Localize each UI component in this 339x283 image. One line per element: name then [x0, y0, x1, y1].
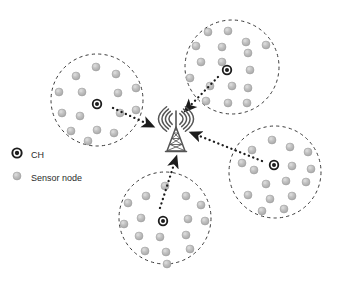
sensor-node — [224, 27, 232, 35]
sensor-node — [55, 88, 63, 96]
sensor-node — [162, 248, 170, 256]
sensor-node — [132, 106, 140, 114]
sensor-node — [304, 148, 312, 156]
cluster-bottom — [119, 172, 211, 268]
cluster-head-marker[interactable] — [92, 99, 102, 109]
sensor-node — [72, 72, 80, 80]
ch-icon — [11, 147, 22, 158]
signal-wave-l-1 — [169, 114, 172, 125]
sensor-node — [76, 112, 84, 120]
sensor-node — [288, 192, 296, 200]
sensor-node — [238, 159, 246, 167]
sensor-node — [163, 260, 171, 268]
sensor-node — [246, 66, 254, 74]
clusters-layer — [51, 20, 321, 268]
sensor-node — [182, 192, 190, 200]
sensor-node — [288, 162, 296, 170]
sensor-node — [137, 214, 145, 222]
sensor-node — [114, 89, 122, 97]
sensor-node — [156, 233, 164, 241]
cluster-head-marker[interactable] — [158, 216, 168, 226]
sensor-node — [135, 232, 143, 240]
cluster-top-left — [51, 54, 143, 146]
sensor-node — [141, 247, 149, 255]
cluster-top-right — [185, 20, 279, 114]
sensor-node — [302, 178, 310, 186]
cluster-right — [229, 126, 321, 218]
sensor-node — [142, 192, 150, 200]
sensor-node — [244, 49, 252, 57]
sensor-node — [92, 63, 100, 71]
legend: CHSensor node — [11, 147, 82, 183]
sensor-node — [242, 38, 250, 46]
topology-canvas: CHSensor node — [0, 0, 339, 283]
sensor-node — [248, 146, 256, 154]
cluster-head-marker[interactable] — [269, 160, 279, 170]
sensor-node — [78, 88, 86, 96]
signal-wave-r-1 — [180, 114, 183, 125]
sensor-node — [244, 191, 252, 199]
sensor-node — [282, 177, 290, 185]
legend-item-sensor-node: Sensor node — [13, 172, 82, 183]
sensor-node — [93, 126, 101, 134]
base-station-tower[interactable] — [158, 107, 193, 152]
sensor-node — [110, 129, 118, 137]
sensor-node — [218, 58, 226, 66]
sensor-node — [258, 207, 266, 215]
sensor-node — [58, 109, 66, 117]
sensor-node — [67, 127, 75, 135]
sensor-node-icon — [13, 172, 21, 180]
sensor-node — [280, 205, 288, 213]
sensor-node — [307, 165, 315, 173]
sensor-node — [204, 28, 212, 36]
sensor-node — [124, 199, 132, 207]
sensor-node — [182, 231, 190, 239]
sensor-node — [268, 136, 276, 144]
sensor-node — [250, 166, 258, 174]
sensor-node — [266, 195, 274, 203]
sensor-node — [197, 58, 205, 66]
sensor-node — [186, 245, 194, 253]
legend-label-cluster-head: CH — [31, 150, 44, 160]
network-topology-figure: CHSensor node — [0, 0, 339, 283]
legend-item-cluster-head: CH — [11, 147, 44, 160]
sensor-node — [120, 220, 128, 228]
sensor-node — [84, 137, 92, 145]
sensor-node — [202, 97, 210, 105]
sensor-node — [197, 201, 205, 209]
arrows-layer — [113, 77, 262, 208]
sensor-node — [218, 43, 226, 51]
sensor-node — [201, 217, 209, 225]
cluster-head-marker[interactable] — [222, 65, 232, 75]
sensor-node — [262, 180, 270, 188]
sensor-node — [243, 99, 251, 107]
sensor-node — [228, 82, 236, 90]
sensor-node — [132, 84, 140, 92]
sensor-node — [186, 74, 194, 82]
sensor-node — [206, 82, 214, 90]
sensor-node — [224, 99, 232, 107]
cluster-boundary — [185, 20, 279, 114]
legend-label-sensor-node: Sensor node — [31, 173, 82, 183]
sensor-node — [112, 70, 120, 78]
sensor-node — [192, 42, 200, 50]
sensor-node — [262, 41, 270, 49]
sensor-node — [244, 84, 252, 92]
sensor-node — [184, 215, 192, 223]
sensor-node — [286, 143, 294, 151]
